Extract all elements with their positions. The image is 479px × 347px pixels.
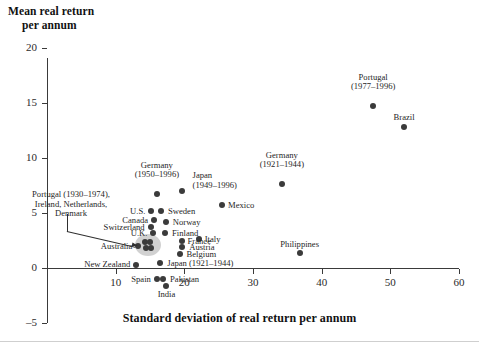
y-tick-20 <box>42 48 47 49</box>
data-point-finland[interactable] <box>162 230 168 236</box>
data-point-spain[interactable] <box>154 276 160 282</box>
y-axis-title: Mean real return per annum <box>8 4 94 32</box>
x-tick-label-50: 50 <box>370 276 410 288</box>
point-label-norway: Norway <box>173 218 219 228</box>
cluster-annotation-line2: Ireland, Netherlands, <box>35 199 107 209</box>
point-label-pakistan: Pakistan <box>170 275 214 285</box>
data-point-portugal-1977-1996[interactable] <box>370 103 376 109</box>
data-point-mexico[interactable] <box>219 202 225 208</box>
point-label-brazil: Brazil <box>379 113 429 123</box>
data-point-belgium[interactable] <box>177 251 183 257</box>
data-point-germany-1921-1944[interactable] <box>279 181 285 187</box>
footer-divider <box>0 341 479 342</box>
data-point-brazil[interactable] <box>401 124 407 130</box>
leader-line-vertical <box>67 214 68 232</box>
point-label-new-zealand: New Zealand <box>66 260 130 270</box>
x-tick-40 <box>322 269 323 274</box>
y-tick-label-10: 10 <box>7 151 37 163</box>
data-point-cluster-point-2[interactable] <box>147 239 153 245</box>
data-point-u-k[interactable] <box>150 230 156 236</box>
data-point-austria[interactable] <box>179 244 185 250</box>
data-point-norway[interactable] <box>163 219 169 225</box>
y-tick-label-20: 20 <box>7 41 37 53</box>
x-tick-30 <box>253 269 254 274</box>
y-tick-0 <box>42 268 47 269</box>
y-axis-title-line1: Mean real return <box>8 5 94 17</box>
y-tick-label-15: 15 <box>7 96 37 108</box>
data-point-u-s[interactable] <box>148 208 154 214</box>
data-point-pakistan[interactable] <box>160 276 166 282</box>
point-label-u-k: U.K. <box>113 229 147 239</box>
x-tick-label-30: 30 <box>233 276 273 288</box>
cluster-annotation-line1: Portugal (1930–1974), <box>32 189 110 199</box>
data-point-japan-1949-1996[interactable] <box>179 188 185 194</box>
point-label-japan-1949-1996: Japan(1949–1996) <box>193 171 263 190</box>
data-point-france[interactable] <box>179 238 185 244</box>
y-tick-10 <box>42 158 47 159</box>
point-label-japan-1921-1944: Japan (1921–1944) <box>167 259 255 269</box>
scatter-plot-figure: Mean real return per annum 102030405060–… <box>0 0 479 347</box>
data-point-japan-1921-1944[interactable] <box>157 260 163 266</box>
x-tick-50 <box>390 269 391 274</box>
point-label-mexico: Mexico <box>228 201 274 211</box>
point-label-portugal-1977-1996: Portugal(1977–1996) <box>328 73 418 92</box>
cluster-annotation-line3: Denmark <box>55 208 87 218</box>
data-point-new-zealand[interactable] <box>133 262 139 268</box>
point-label-germany-1921-1944: Germany(1921–1944) <box>237 151 327 170</box>
x-tick-label-40: 40 <box>302 276 342 288</box>
x-axis-title: Standard deviation of real return per an… <box>0 311 479 326</box>
y-axis-title-line2: per annum <box>8 18 94 32</box>
point-label-germany-1950-1996: Germany(1950–1996) <box>112 161 202 180</box>
x-tick-10 <box>116 269 117 274</box>
y-tick-15 <box>42 103 47 104</box>
x-tick-label-60: 60 <box>439 276 479 288</box>
point-label-india: India <box>149 290 183 300</box>
data-point-germany-1950-1996[interactable] <box>154 191 160 197</box>
point-label-sweden: Sweden <box>168 207 214 217</box>
data-point-sweden[interactable] <box>158 208 164 214</box>
data-point-canada[interactable] <box>151 217 157 223</box>
y-tick-label-0: 0 <box>7 261 37 273</box>
point-label-philippines: Philippines <box>269 240 331 250</box>
point-label-spain: Spain <box>117 275 151 285</box>
x-tick-60 <box>459 269 460 274</box>
data-point-philippines[interactable] <box>297 250 303 256</box>
